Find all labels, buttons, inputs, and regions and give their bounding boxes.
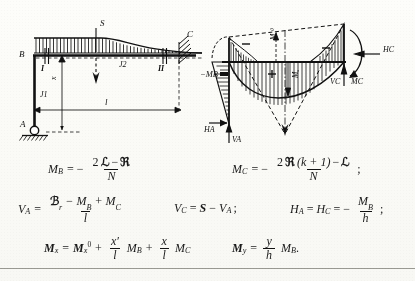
my-fraction: y h [263,235,275,261]
right-moment-diagram: −MB HA VA VC MC HC Mₓ⁰ Mₓ [200,6,415,146]
fixed-support-c [179,36,191,64]
va-numerator: ℬr− MB+ MC [47,195,124,211]
formula-mc: MC = − 2ℜ(k + 1)−ℒ N ; [232,156,361,182]
label-moment-mc-couple: MC [351,78,363,86]
label-section-II: II [158,65,164,73]
hc-subscript: C [325,207,330,216]
va-num-rest2: + M [94,194,115,208]
label-ordinate-mx: Mₓ [292,70,300,78]
label-reaction-ha: HA [204,126,215,134]
my-numerator: y [263,235,274,248]
mx-term3-symbol: M [175,241,185,256]
label-section-I: I [41,65,44,73]
mx-fraction-1: x′ l [108,235,122,261]
reaction-va-arrow [226,124,231,143]
formula-ha: HA = HC = − MB h ; [290,195,383,225]
my-tail: . [296,241,299,256]
label-abscissa-x: x [50,76,58,80]
va-fraction: ℬr− MB+ MC l [47,195,124,225]
hc-symbol: H [316,202,325,217]
mx-subscript: x [55,246,59,255]
va-num-sub2: C [115,203,120,212]
mb-num-frak-r: ℜ [120,155,130,169]
page-bottom-rule [0,268,415,269]
mx-term3-subscript: C [185,246,190,255]
va-num-sub1: B [86,203,91,212]
ha-subscript: A [299,207,304,216]
mx-term2-subscript: B [137,246,142,255]
moment-diagram-svg [200,6,415,146]
mb-denominator: N [104,169,118,183]
label-reaction-va: VA [232,136,241,144]
my-equals: = [250,241,257,256]
formula-va: VA = ℬr− MB+ MC l [18,195,126,225]
va-equals: = [34,202,41,217]
mc-numerator: 2ℜ(k + 1)−ℒ [274,156,353,169]
vc-tail: ; [233,201,236,216]
formula-block: MB = − 2ℒ−ℜ N MC = − 2ℜ(k + 1)−ℒ N ; VA … [0,150,415,265]
vc-subscript: C [181,206,186,215]
label-beam-inertia: J2 [119,61,127,69]
mb-symbol: M [48,162,58,177]
mc-symbol: M [232,162,242,177]
positive-area-parabola [229,62,344,105]
dimension-extension-lines [36,58,202,132]
mb-num-operator: − [112,155,119,169]
formula-my: My = y h MB . [232,235,299,261]
mx-f2-numerator: x [159,235,170,248]
ha-num-subscript: B [368,203,373,212]
mc-num-frak-l: ℒ [341,155,350,169]
mb-equals: = − [67,162,84,177]
label-support-a: A [20,120,26,129]
label-joint-c: C [187,30,193,39]
va-num-frak-sub: r [59,203,62,212]
mb-num-frak-l: ℒ [101,155,110,169]
my-term-symbol: M [281,241,291,256]
mb-num-coeff: 2 [93,155,99,169]
mb-fraction: 2ℒ−ℜ N [90,156,134,182]
mc-fraction: 2ℜ(k + 1)−ℒ N [274,156,353,182]
mc-num-operator: − [332,155,339,169]
ha-num-symbol: M [358,194,368,208]
mx-f1-denominator: l [110,248,119,262]
mx-f2-denominator: l [160,248,169,262]
label-reaction-vc: VC [330,78,340,86]
ha-equals-2: = − [334,202,351,217]
distributed-load-hatching [34,38,202,53]
vc-rhs-operator: − [209,201,216,216]
ha-tail: ; [380,202,383,217]
va-subscript: A [25,207,30,216]
vc-rhs-subscript: A [226,206,231,215]
mx-operator-2: + [146,241,153,256]
mx-operator-1: + [95,241,102,256]
formula-mx: Mx = Mx0 + x′ l MB + x l MC [44,235,190,261]
vc-rhs-bold: S [200,201,207,216]
mc-num-coeff: 2 [277,155,283,169]
dimension-x [59,56,65,130]
neg-area-marker-left [220,72,228,76]
mc-num-paren: (k + 1) [297,155,330,169]
label-ordinate-m0: Mₓ⁰ [270,29,278,40]
dimension-l [34,107,181,113]
mc-equals: = − [251,162,268,177]
formula-vc: VC = S − VA ; [174,201,237,216]
label-reaction-hc: HC [383,46,394,54]
va-denominator: l [81,211,90,225]
label-moment-b: −MB [200,70,218,79]
dashed-leg-left [229,37,285,134]
mc-subscript: C [242,167,247,176]
my-term-subscript: B [291,246,296,255]
my-subscript: y [243,246,247,255]
mx-fraction-2: x l [159,235,170,261]
left-cap-arc [212,37,229,58]
reaction-vc-arrow [341,65,346,86]
mx-term2-symbol: M [127,241,137,256]
left-frame-diagram: B C A J1 J2 I II S l x [6,6,206,146]
ha-symbol: H [290,202,299,217]
mx-equals: = [62,241,69,256]
va-num-rest1: − M [65,194,86,208]
label-column-inertia: J1 [40,91,48,99]
label-joint-b: B [19,50,25,59]
vc-symbol: V [174,201,181,216]
mb-subscript: B [58,167,63,176]
